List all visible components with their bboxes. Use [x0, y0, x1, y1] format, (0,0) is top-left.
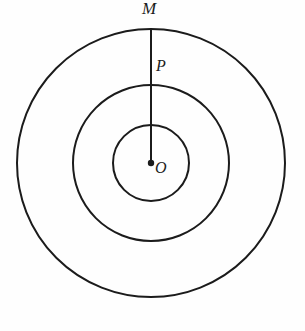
point-label-p: P — [156, 58, 166, 74]
point-label-m: M — [142, 0, 156, 17]
center-point-marker — [148, 160, 154, 166]
concentric-circles-diagram — [0, 0, 305, 331]
figure-canvas: M P O — [0, 0, 305, 331]
point-label-o: O — [155, 160, 167, 176]
